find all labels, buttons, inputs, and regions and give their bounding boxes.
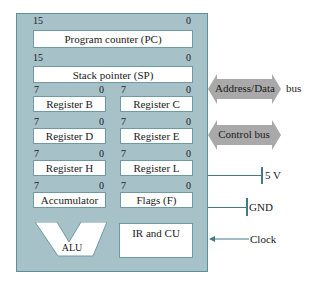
acc-msb: 7	[34, 181, 39, 191]
power-terminal-icon	[261, 167, 263, 184]
power-label: 5 V	[265, 169, 281, 181]
stack-pointer-register: Stack pointer (SP)	[33, 66, 193, 83]
control-bus-label: Control bus	[212, 128, 276, 140]
reg-l-lsb: 0	[186, 149, 191, 159]
reg-l-msb: 7	[121, 149, 126, 159]
reg-h-lsb: 0	[99, 149, 104, 159]
ground-wire	[208, 207, 247, 208]
power-wire	[208, 175, 262, 176]
sp-lsb-label: 0	[186, 53, 191, 63]
address-data-bus-label: Address/Data	[213, 82, 277, 94]
reg-e-msb: 7	[121, 117, 126, 127]
program-counter-register: Program counter (PC)	[33, 30, 193, 48]
clock-label: Clock	[250, 233, 276, 245]
reg-d-lsb: 0	[99, 117, 104, 127]
reg-b-lsb: 0	[99, 85, 104, 95]
register-c: Register C	[120, 96, 193, 112]
flags-register: Flags (F)	[120, 192, 193, 208]
reg-h-msb: 7	[34, 149, 39, 159]
pc-msb-label: 15	[33, 16, 43, 26]
alu-label: ALU	[56, 242, 88, 253]
alu-block: ALU	[35, 222, 107, 257]
bus-suffix-label: bus	[286, 82, 301, 94]
reg-b-msb: 7	[34, 85, 39, 95]
acc-lsb: 0	[99, 181, 104, 191]
flags-msb: 7	[121, 181, 126, 191]
flags-lsb: 0	[186, 181, 191, 191]
register-h: Register H	[33, 160, 106, 176]
register-l: Register L	[120, 160, 193, 176]
ground-terminal-icon	[246, 198, 248, 216]
ground-label: GND	[249, 201, 273, 213]
accumulator-register: Accumulator	[33, 192, 106, 208]
reg-c-lsb: 0	[186, 85, 191, 95]
sp-msb-label: 15	[33, 53, 43, 63]
ir-and-cu-block: IR and CU	[119, 223, 193, 258]
register-d: Register D	[33, 128, 106, 144]
register-b: Register B	[33, 96, 106, 112]
reg-c-msb: 7	[121, 85, 126, 95]
reg-e-lsb: 0	[186, 117, 191, 127]
clock-arrow-icon	[208, 234, 250, 244]
register-e: Register E	[120, 128, 193, 144]
reg-d-msb: 7	[34, 117, 39, 127]
pc-lsb-label: 0	[186, 16, 191, 26]
